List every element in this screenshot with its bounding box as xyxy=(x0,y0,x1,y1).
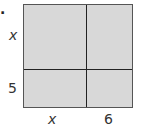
bottom-label-right: 6 xyxy=(104,111,113,127)
area-model-grid xyxy=(23,4,133,108)
horizontal-divider xyxy=(24,69,132,70)
problem-number: . xyxy=(0,1,5,17)
left-label-top: x xyxy=(9,27,17,43)
vertical-divider xyxy=(86,5,87,107)
left-label-bottom: 5 xyxy=(8,80,17,96)
bottom-label-left: x xyxy=(48,111,56,127)
